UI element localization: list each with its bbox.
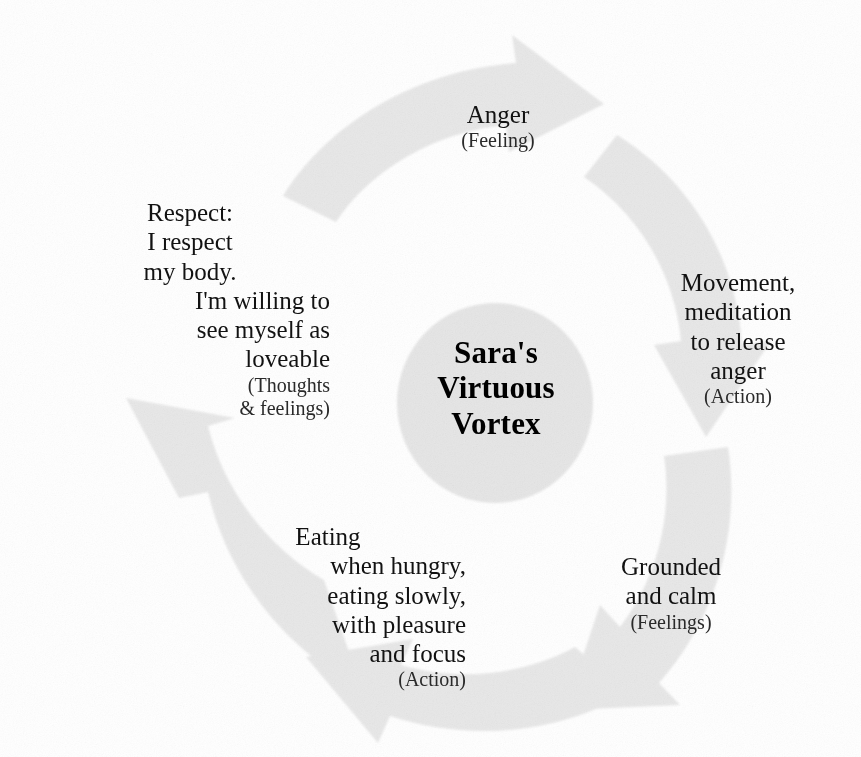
movement-line-2: meditation <box>638 297 838 326</box>
respect-sublabel-line-2: & feelings) <box>50 397 330 420</box>
segment-label-grounded: Grounded and calm (Feelings) <box>566 552 776 634</box>
hub-line-3: Vortex <box>398 406 594 441</box>
respect-line-1: Respect: <box>50 198 330 227</box>
eating-line-4: with pleasure <box>190 610 466 639</box>
respect-line-3: my body. <box>50 257 330 286</box>
movement-sublabel: (Action) <box>638 385 838 408</box>
respect-sublabel-line-1: (Thoughts <box>50 374 330 397</box>
segment-label-movement: Movement, meditation to release anger (A… <box>638 268 838 408</box>
anger-line-1: Anger <box>368 100 628 129</box>
segment-label-eating: Eating when hungry, eating slowly, with … <box>190 522 466 692</box>
movement-line-3: to release <box>638 327 838 356</box>
respect-line-6: loveable <box>50 344 330 373</box>
eating-line-2: when hungry, <box>190 551 466 580</box>
respect-line-5: see myself as <box>50 315 330 344</box>
eating-sublabel: (Action) <box>190 668 466 691</box>
segment-label-anger: Anger (Feeling) <box>368 100 628 153</box>
respect-line-4: I'm willing to <box>50 286 330 315</box>
hub-line-2: Virtuous <box>398 370 594 405</box>
movement-line-4: anger <box>638 356 838 385</box>
hub-line-1: Sara's <box>398 335 594 370</box>
eating-line-1: Eating <box>190 522 466 551</box>
grounded-line-2: and calm <box>566 581 776 610</box>
virtuous-vortex-diagram: Anger (Feeling) Movement, meditation to … <box>0 0 861 757</box>
movement-line-1: Movement, <box>638 268 838 297</box>
eating-line-3: eating slowly, <box>190 581 466 610</box>
grounded-sublabel: (Feelings) <box>566 611 776 634</box>
eating-line-5: and focus <box>190 639 466 668</box>
respect-line-2: I respect <box>50 227 330 256</box>
center-hub-label: Sara's Virtuous Vortex <box>398 335 594 441</box>
grounded-line-1: Grounded <box>566 552 776 581</box>
segment-label-respect: Respect: I respect my body. I'm willing … <box>50 198 330 420</box>
anger-sublabel: (Feeling) <box>368 129 628 152</box>
